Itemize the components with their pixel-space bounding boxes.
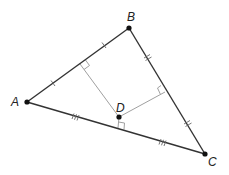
point-d bbox=[116, 114, 121, 119]
triangle-diagram: A B C D bbox=[0, 0, 229, 175]
right-angle-marker-ab bbox=[84, 60, 90, 70]
right-angle-marker-bc bbox=[158, 86, 162, 95]
label-d: D bbox=[116, 101, 125, 115]
tick-ac-2c bbox=[164, 141, 166, 147]
perpendicular-to-bc bbox=[119, 92, 165, 117]
point-c bbox=[202, 151, 207, 156]
side-ab bbox=[27, 28, 129, 102]
point-b bbox=[126, 25, 131, 30]
point-a bbox=[24, 99, 29, 104]
perpendicular-to-ab bbox=[80, 64, 119, 117]
label-c: C bbox=[208, 155, 217, 169]
label-b: B bbox=[127, 10, 135, 24]
tick-ac-2b bbox=[162, 140, 164, 146]
label-a: A bbox=[10, 95, 19, 109]
